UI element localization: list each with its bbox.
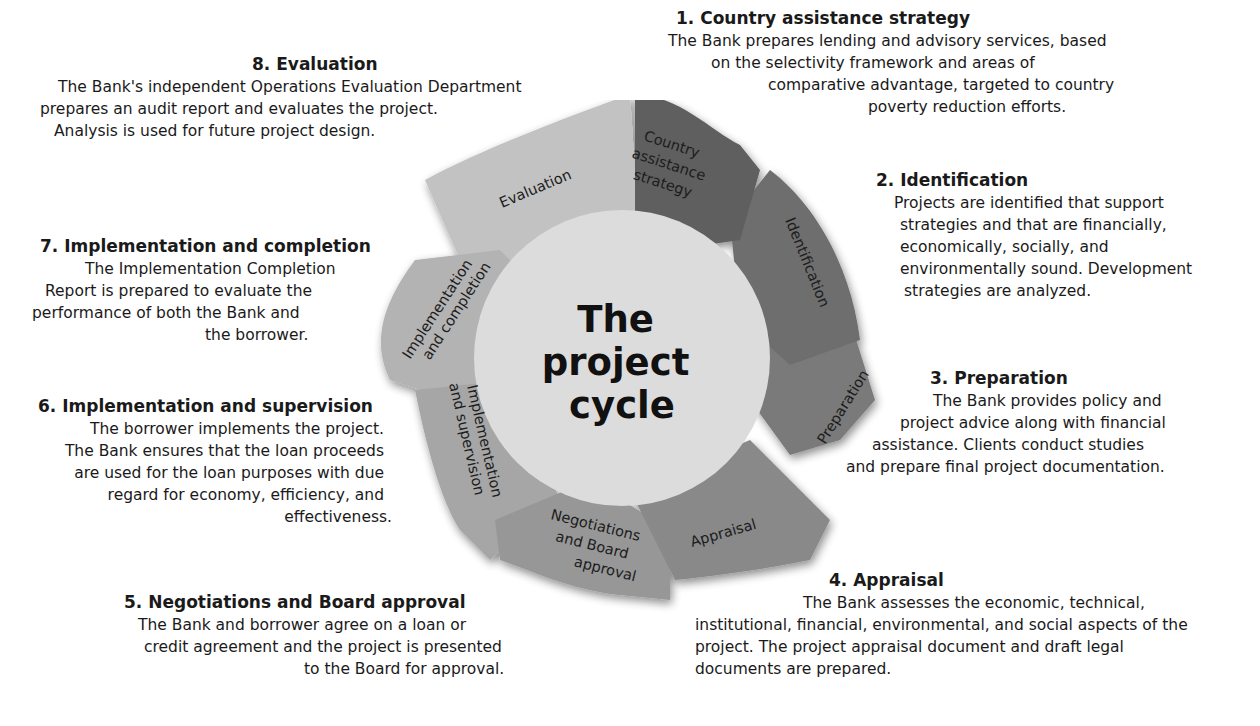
step-text-line: effectiveness.	[0, 506, 392, 528]
step-7-implementation-completion: 7. Implementation and completion The Imp…	[40, 234, 400, 346]
step-text-line: the borrower.	[205, 324, 400, 346]
step-text-line: project. The project appraisal document …	[695, 636, 1260, 658]
step-text-line: to the Board for approval.	[304, 658, 624, 680]
step-text-line: poverty reduction efforts.	[868, 96, 1168, 118]
step-text-line: are used for the loan purposes with due	[0, 462, 384, 484]
step-text-line: The Bank ensures that the loan proceeds	[0, 440, 384, 462]
step-text-line: comparative advantage, targeted to count…	[768, 74, 1168, 96]
step-text-line: The Bank and borrower agree on a loan or	[138, 614, 624, 636]
step-text-line: The borrower implements the project.	[0, 418, 384, 440]
step-text-line: The Bank assesses the economic, technica…	[803, 592, 1260, 614]
step-text-line: assistance. Clients conduct studies	[872, 434, 1260, 456]
step-3-preparation: 3. Preparation The Bank provides policy …	[930, 366, 1260, 478]
step-text-line: Report is prepared to evaluate the	[45, 280, 400, 302]
step-title: 7. Implementation and completion	[40, 234, 400, 258]
step-text-line: The Bank's independent Operations Evalua…	[58, 76, 560, 98]
step-text-line: and prepare final project documentation.	[846, 456, 1260, 478]
step-6-implementation-supervision: 6. Implementation and supervision The bo…	[0, 394, 392, 528]
step-text-line: The Bank provides policy and	[933, 390, 1260, 412]
step-text-line: prepares an audit report and evaluates t…	[40, 98, 560, 120]
step-title: 3. Preparation	[930, 366, 1260, 390]
step-2-identification: 2. Identification Projects are identifie…	[876, 168, 1256, 302]
step-5-negotiations-board-approval: 5. Negotiations and Board approval The B…	[124, 590, 624, 680]
step-4-appraisal: 4. Appraisal The Bank assesses the econo…	[695, 568, 1260, 680]
step-text-line: regard for economy, efficiency, and	[0, 484, 384, 506]
step-text-line: documents are prepared.	[695, 658, 1260, 680]
step-text-line: credit agreement and the project is pres…	[144, 636, 624, 658]
step-title: 4. Appraisal	[829, 568, 1260, 592]
step-title: 5. Negotiations and Board approval	[124, 590, 624, 614]
step-text-line: environmentally sound. Development	[900, 258, 1256, 280]
step-8-evaluation: 8. Evaluation The Bank's independent Ope…	[40, 52, 560, 142]
step-title: 2. Identification	[876, 168, 1256, 192]
step-text-line: strategies are analyzed.	[904, 280, 1256, 302]
step-text-line: strategies and that are financially,	[900, 214, 1256, 236]
step-text-line: project advice along with financial	[900, 412, 1260, 434]
step-text-line: The Bank prepares lending and advisory s…	[668, 30, 1168, 52]
step-text-line: economically, socially, and	[900, 236, 1256, 258]
step-title: 1. Country assistance strategy	[676, 6, 1168, 30]
step-title: 6. Implementation and supervision	[38, 394, 392, 418]
step-text-line: Projects are identified that support	[894, 192, 1256, 214]
step-1-country-assistance-strategy: 1. Country assistance strategy The Bank …	[668, 6, 1168, 118]
step-text-line: performance of both the Bank and	[32, 302, 400, 324]
step-text-line: institutional, financial, environmental,…	[695, 614, 1260, 636]
step-text-line: The Implementation Completion	[85, 258, 400, 280]
step-text-line: on the selectivity framework and areas o…	[711, 52, 1168, 74]
step-text-line: Analysis is used for future project desi…	[54, 120, 560, 142]
step-title: 8. Evaluation	[252, 52, 560, 76]
